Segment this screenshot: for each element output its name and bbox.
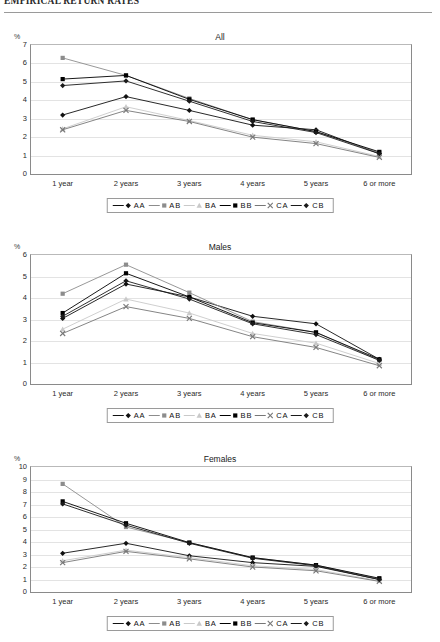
x-axis-tick: 2 years <box>114 597 139 606</box>
series-ca <box>60 304 382 368</box>
header-divider <box>4 12 432 13</box>
y-axis-tick: 3 <box>23 551 27 559</box>
legend-label: CA <box>276 411 288 420</box>
legend-marker-square-icon <box>232 202 239 209</box>
legend-marker-square-icon <box>232 412 239 419</box>
y-axis-tick: 4 <box>23 97 27 105</box>
legend-females: AAABBABBCACB <box>107 616 334 631</box>
legend-item-aa[interactable]: AA <box>113 201 149 210</box>
y-axis-tick: 5 <box>23 78 27 86</box>
y-axis-tick: 1 <box>23 152 27 160</box>
legend-marker-triangle-icon <box>196 620 203 627</box>
legend-item-bb[interactable]: BB <box>220 619 256 628</box>
y-axis-tick: 6 <box>23 513 27 521</box>
legend-line <box>148 205 159 206</box>
series-ba <box>60 104 382 159</box>
legend-males: AAABBABBCACB <box>107 408 334 423</box>
legend-label: CA <box>276 619 288 628</box>
x-axis-tick: 4 years <box>240 389 265 398</box>
plot-area-males: 01234561 year2 years3 years4 years5 year… <box>30 254 412 385</box>
y-axis-tick: 6 <box>23 251 27 259</box>
y-axis-tick: 0 <box>23 380 27 388</box>
x-axis-tick: 1 year <box>52 389 73 398</box>
legend-item-ca[interactable]: CA <box>255 619 291 628</box>
legend-item-cb[interactable]: CB <box>291 619 327 628</box>
legend-marker-diamond-icon <box>125 620 132 627</box>
legend-line <box>184 623 195 624</box>
legend-label: AA <box>134 201 146 210</box>
x-axis-tick: 6 or more <box>363 179 395 188</box>
legend-item-ba[interactable]: BA <box>184 201 220 210</box>
y-axis-tick: 9 <box>23 476 27 484</box>
legend-label: CB <box>312 619 324 628</box>
legend-line <box>148 415 159 416</box>
plot-area-females: 0123456789101 year2 years3 years4 years5… <box>30 466 412 593</box>
series-cb <box>60 278 382 363</box>
legend-line <box>255 415 266 416</box>
legend-marker-diamond-icon <box>303 412 310 419</box>
legend-item-ba[interactable]: BA <box>184 619 220 628</box>
series-bb <box>61 499 382 580</box>
legend-marker-square-icon <box>232 620 239 627</box>
legend-line <box>291 415 302 416</box>
x-axis-tick: 3 years <box>177 179 202 188</box>
legend-label: CB <box>312 411 324 420</box>
legend-item-ba[interactable]: BA <box>184 411 220 420</box>
legend-marker-cross-icon <box>267 412 274 419</box>
y-axis-tick: 5 <box>23 526 27 534</box>
y-axis-tick: 2 <box>23 337 27 345</box>
page-header: EMPIRICAL RETURN RATES <box>0 0 440 12</box>
legend-item-ca[interactable]: CA <box>255 411 291 420</box>
legend-item-aa[interactable]: AA <box>113 411 149 420</box>
x-axis-tick: 4 years <box>240 179 265 188</box>
series-ab <box>61 56 382 155</box>
x-axis-tick: 2 years <box>114 179 139 188</box>
y-axis-tick: 3 <box>23 115 27 123</box>
legend-item-bb[interactable]: BB <box>220 201 256 210</box>
series-ca <box>60 549 382 584</box>
x-axis-tick: 2 years <box>114 389 139 398</box>
series-layer <box>31 255 411 384</box>
legend-item-ca[interactable]: CA <box>255 201 291 210</box>
legend-line <box>220 623 231 624</box>
legend-item-aa[interactable]: AA <box>113 619 149 628</box>
legend-line <box>255 623 266 624</box>
x-axis-tick: 6 or more <box>363 597 395 606</box>
legend-marker-diamond-icon <box>303 620 310 627</box>
y-axis-tick: 7 <box>23 41 27 49</box>
legend-label: BB <box>241 619 253 628</box>
series-ba <box>60 547 382 583</box>
legend-label: AB <box>169 201 181 210</box>
y-axis-tick: 1 <box>23 359 27 367</box>
x-axis-tick: 5 years <box>304 597 329 606</box>
legend-label: BA <box>205 619 217 628</box>
series-bb <box>61 271 382 361</box>
legend-line <box>291 623 302 624</box>
y-axis-tick: 8 <box>23 488 27 496</box>
legend-line <box>291 205 302 206</box>
legend-label: BA <box>205 201 217 210</box>
x-axis-tick: 1 year <box>52 179 73 188</box>
y-axis-tick: 0 <box>23 170 27 178</box>
legend-item-bb[interactable]: BB <box>220 411 256 420</box>
legend-item-ab[interactable]: AB <box>148 411 184 420</box>
y-axis-tick: 4 <box>23 294 27 302</box>
legend-marker-diamond-icon <box>125 202 132 209</box>
y-axis-tick: 10 <box>19 463 27 471</box>
series-cb <box>60 501 382 582</box>
y-axis-tick: 3 <box>23 316 27 324</box>
series-aa <box>60 281 382 362</box>
legend-line <box>220 415 231 416</box>
legend-label: BB <box>241 201 253 210</box>
legend-line <box>113 415 124 416</box>
legend-item-cb[interactable]: CB <box>291 411 327 420</box>
x-axis-tick: 6 or more <box>363 389 395 398</box>
y-axis-tick: 0 <box>23 588 27 596</box>
series-bb <box>61 73 382 154</box>
legend-marker-square-icon <box>160 412 167 419</box>
legend-item-ab[interactable]: AB <box>148 619 184 628</box>
x-axis-tick: 5 years <box>304 389 329 398</box>
legend-item-cb[interactable]: CB <box>291 201 327 210</box>
legend-label: BB <box>241 411 253 420</box>
legend-item-ab[interactable]: AB <box>148 201 184 210</box>
